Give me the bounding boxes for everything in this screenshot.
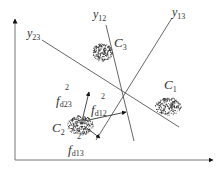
boundary-y23: [42, 40, 179, 127]
fd23-sub: d23: [60, 100, 72, 109]
label-y23: y23: [27, 27, 40, 42]
y23-sub: 23: [32, 33, 40, 42]
boundary-y13: [96, 18, 172, 140]
fd13-sup: 2: [77, 133, 81, 141]
fd12-sub: d12: [95, 109, 107, 118]
arrow-fd23: [82, 92, 89, 121]
y13-sub: 13: [177, 12, 185, 21]
fd12-sup: 2: [101, 93, 105, 101]
c3-sub: 3: [123, 43, 127, 52]
label-fd13: 2fd13: [68, 141, 84, 157]
fd13-sub: d13: [72, 149, 84, 158]
cluster-c1: [155, 98, 181, 116]
label-y13: y13: [172, 6, 185, 21]
y12-sub: 12: [98, 14, 106, 23]
label-c3: C3: [114, 36, 127, 52]
c1-sub: 1: [173, 85, 177, 94]
c3-base: C: [114, 35, 123, 50]
c2-base: C: [52, 120, 61, 135]
fd23-sup: 2: [65, 84, 69, 92]
label-c2: C2: [52, 121, 65, 137]
label-c1: C1: [164, 78, 177, 94]
cluster-c3: [93, 43, 113, 61]
diagram-canvas: [0, 0, 220, 170]
label-fd23: 2fd23: [56, 92, 72, 108]
c1-base: C: [164, 77, 173, 92]
label-y12: y12: [93, 8, 106, 23]
label-fd12: 2fd12: [91, 101, 107, 117]
c2-sub: 2: [61, 128, 65, 137]
